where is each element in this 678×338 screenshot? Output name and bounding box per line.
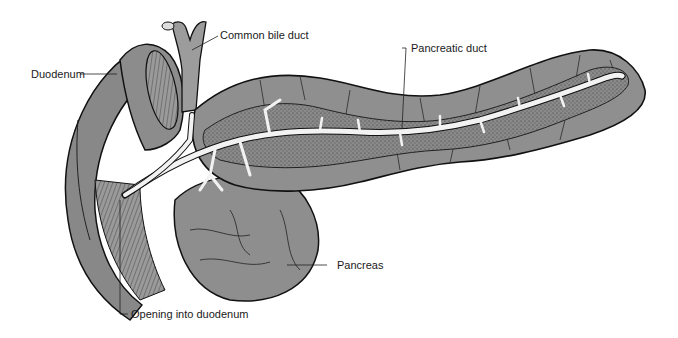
label-duodenum: Duodenum	[31, 68, 85, 80]
label-opening-into-duodenum: Opening into duodenum	[131, 308, 248, 320]
duodenum-shape	[66, 44, 184, 320]
pancreas-head-shape	[174, 175, 318, 301]
label-pancreatic-duct: Pancreatic duct	[411, 42, 487, 54]
label-pancreas: Pancreas	[337, 259, 383, 271]
pancreas-illustration	[0, 0, 678, 338]
label-common-bile-duct: Common bile duct	[220, 29, 309, 41]
pancreas-body-shape	[192, 50, 645, 191]
